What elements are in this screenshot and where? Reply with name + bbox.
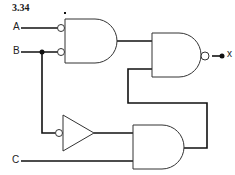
logic-circuit: [0, 0, 235, 175]
output-terminal-dot: [220, 54, 225, 59]
nand-gate-2: [152, 33, 201, 77]
and-gate-1: [65, 19, 117, 63]
inverter-gate: [63, 115, 94, 151]
wire-b-branch: [42, 52, 55, 133]
inversion-bubble-a: [58, 25, 65, 32]
mark-dot: [64, 12, 66, 14]
output-inversion-bubble: [201, 52, 209, 60]
and-gate-3: [133, 125, 184, 169]
inversion-bubble-b: [58, 49, 65, 56]
inverter-input-bubble: [56, 130, 63, 137]
junction-dot-b: [40, 50, 45, 55]
